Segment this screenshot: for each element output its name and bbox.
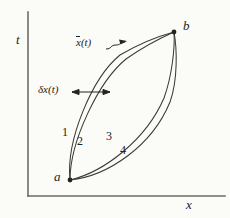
curve-label-1: 1 — [62, 126, 68, 138]
point-b-dot — [172, 30, 177, 35]
xbar-suffix: (t) — [81, 36, 91, 48]
paths-group — [70, 32, 177, 180]
variational-paths-diagram: t x a b x(t) δx(t) 1 2 3 4 — [0, 0, 230, 218]
xbar-annotation-label: x(t) — [76, 37, 91, 48]
x-axis-label: x — [186, 198, 192, 211]
delta-arrow-head-right — [103, 89, 110, 94]
curve-label-3: 3 — [106, 130, 112, 142]
point-a-label: a — [54, 170, 61, 183]
xbar-overbar-symbol: x — [76, 37, 81, 48]
point-b-label: b — [183, 19, 190, 32]
point-a-dot — [68, 178, 73, 183]
diagram-canvas — [0, 0, 230, 218]
curve-label-4: 4 — [120, 144, 126, 156]
delta-x-annotation-label: δx(t) — [38, 84, 58, 95]
y-axis-label: t — [16, 33, 20, 46]
delta-arrow-head-left — [72, 89, 79, 94]
curve-1 — [70, 32, 174, 180]
xbar-pointer-arrow — [106, 40, 127, 50]
curve-label-2: 2 — [77, 135, 83, 147]
